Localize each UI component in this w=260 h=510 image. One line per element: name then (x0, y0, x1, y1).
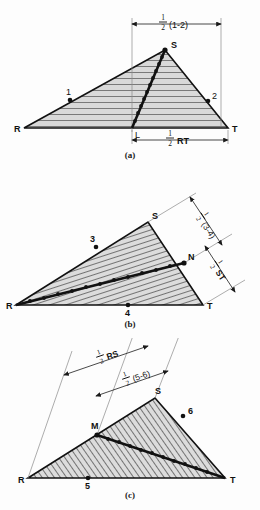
fraction-numerator: 1 (168, 129, 172, 138)
point-marker-1 (68, 98, 73, 103)
panel-caption-b: (b) (0, 319, 260, 329)
panel-a: R S T 1 2 L 1 2 (1-2) 1 2 RT (a) (0, 0, 260, 170)
dimension-line-outer (64, 346, 148, 375)
panel-b-drawing: R S T 3 4 N 1 2 (3-4) 1 2 ST (0, 168, 260, 340)
dimension-label-upper: 1 2 (3-4) (193, 208, 223, 241)
vertex-label-R: R (6, 301, 13, 311)
dimension-label-upper-rest: (3-4) (200, 220, 218, 241)
triangle-fill (28, 398, 225, 478)
dimension-label-outer: 1 2 RS (94, 343, 121, 367)
point-marker-5 (86, 476, 91, 481)
vertex-label-T: T (207, 301, 213, 311)
point-marker-4 (126, 303, 131, 308)
dimension-label-lower: 1 2 ST (207, 256, 233, 284)
point-marker-3 (94, 245, 99, 250)
point-marker-6 (181, 414, 186, 419)
fraction-denominator: 2 (208, 263, 217, 271)
fraction-numerator: 1 (161, 13, 165, 22)
point-label-L: L (135, 130, 140, 140)
point-marker-M (94, 432, 99, 437)
point-label-4: 4 (125, 308, 130, 318)
panel-b: R S T 3 4 N 1 2 (3-4) 1 2 ST (b) (0, 168, 260, 340)
dimension-label-top: 1 2 (1-2) (159, 13, 188, 32)
dimension-label-lower-rest: ST (214, 268, 229, 283)
vertex-label-T: T (232, 124, 238, 134)
fraction-denominator: 2 (168, 139, 172, 148)
dimension-label-bottom-rest: RT (177, 136, 189, 146)
vertex-label-T: T (230, 475, 236, 485)
point-label-N: N (188, 252, 195, 262)
fraction-denominator: 2 (194, 215, 203, 223)
panel-a-drawing: R S T 1 2 L 1 2 (1-2) 1 2 RT (0, 0, 260, 170)
dimension-label-inner: 1 2 (5-6) (120, 363, 152, 389)
vertex-label-S: S (155, 386, 161, 396)
vertex-label-R: R (18, 475, 25, 485)
point-marker-S (162, 47, 167, 52)
panel-caption-a: (a) (0, 150, 260, 160)
dimension-label-outer-rest: RS (105, 348, 120, 361)
point-label-1: 1 (66, 87, 71, 97)
fraction-denominator: 2 (125, 379, 131, 388)
vertex-label-S: S (152, 211, 158, 221)
point-label-2: 2 (212, 91, 217, 101)
dimension-label-inner-rest: (5-6) (131, 368, 151, 383)
point-label-M: M (91, 421, 99, 431)
point-marker-N (181, 260, 186, 265)
vertex-label-S: S (171, 40, 177, 50)
panel-c-drawing: R S T M 5 6 1 2 RS 1 2 (5-6) (0, 338, 260, 510)
dimension-label-bottom: 1 2 RT (166, 129, 189, 148)
point-marker-2 (206, 99, 211, 104)
vertex-label-R: R (14, 124, 21, 134)
dimension-label-top-rest: (1-2) (169, 20, 188, 30)
panel-caption-c: (c) (0, 490, 260, 500)
point-label-6: 6 (188, 406, 193, 416)
panel-c: R S T M 5 6 1 2 RS 1 2 (5-6) (c) (0, 338, 260, 510)
fraction-denominator: 2 (161, 23, 165, 32)
point-label-3: 3 (90, 234, 95, 244)
